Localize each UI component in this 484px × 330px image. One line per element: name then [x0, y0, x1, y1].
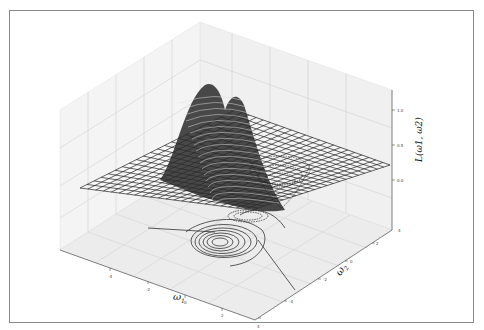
z-tick-labels: 1.0 0.5 0.0	[397, 108, 404, 183]
svg-text:0.5: 0.5	[397, 143, 404, 148]
svg-text:0.0: 0.0	[397, 178, 404, 183]
svg-text:2: 2	[221, 313, 224, 318]
svg-text:-4: -4	[108, 274, 112, 279]
svg-text:-2: -2	[146, 287, 150, 292]
svg-text:4: 4	[257, 324, 260, 329]
svg-text:1: 1	[181, 297, 185, 304]
svg-text:ω: ω	[173, 291, 181, 302]
plot-3d: -4 -2 0 2 4 -4 -2 0 2 4 1.0 0.5 0.0 ω 1 …	[0, 0, 484, 330]
svg-text:4: 4	[398, 228, 401, 233]
svg-text:-4: -4	[289, 299, 293, 304]
svg-text:1.0: 1.0	[397, 108, 404, 113]
svg-text:2: 2	[376, 241, 379, 246]
svg-text:-2: -2	[323, 277, 327, 282]
z-axis-label: L(ω1, ω2)	[414, 117, 424, 163]
svg-text:0: 0	[350, 259, 353, 264]
